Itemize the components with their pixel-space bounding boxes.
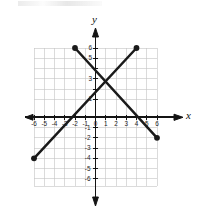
y-tick-label-neg2: -2: [79, 135, 91, 141]
x-axis-label: x: [186, 110, 191, 121]
descending-line-endpoint-start: [72, 45, 78, 51]
y-tick-label-1: 1: [80, 96, 92, 102]
x-tick-label-6: 6: [150, 121, 164, 127]
y-axis-arrow-down: [93, 197, 99, 206]
descending-line-endpoint-end: [154, 135, 160, 141]
y-tick-label-neg1: -1: [79, 125, 91, 131]
ascending-line-endpoint-start: [31, 155, 37, 161]
y-axis-label: y: [92, 14, 97, 25]
y-tick-label-6: 6: [80, 45, 92, 51]
y-tick-label-3: 3: [80, 76, 92, 82]
y-axis-arrow-up: [93, 28, 99, 37]
y-tick-label-neg5: -5: [79, 166, 91, 172]
coordinate-graph-figure: y x -6 -5 -4 -3 -2 -1 0 1 2 3 4 5 6 6 5 …: [0, 0, 203, 210]
ascending-line-endpoint-end: [134, 45, 140, 51]
y-tick-label-neg6: -6: [79, 176, 91, 182]
y-tick-label-neg3: -3: [79, 145, 91, 151]
x-axis-arrow-right: [174, 114, 183, 120]
axes: [25, 28, 183, 206]
graph-canvas: [0, 0, 203, 210]
y-tick-label-5: 5: [80, 55, 92, 61]
y-tick-label-neg4: -4: [79, 155, 91, 161]
